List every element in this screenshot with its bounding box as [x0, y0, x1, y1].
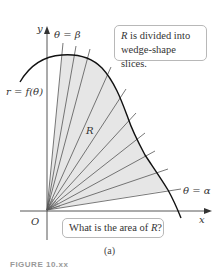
- theta-beta-label: θ = β: [54, 29, 81, 40]
- theta-alpha-label: θ = α: [183, 185, 211, 196]
- callout-top-line1: is divided into: [127, 30, 190, 41]
- x-axis-label: x: [199, 214, 205, 225]
- callout-top-line2: wedge-shape slices.: [121, 43, 202, 71]
- callout-bottom-suffix: ?: [157, 222, 162, 233]
- y-axis-arrow-icon: [44, 26, 50, 34]
- origin-label: O: [31, 216, 39, 227]
- figure-number-cutoff: FIGURE 10.xx: [10, 260, 68, 269]
- callout-area-question: What is the area of R?: [62, 218, 164, 238]
- x-axis-arrow-icon: [204, 208, 212, 214]
- callout-wedge-slices: R is divided into wedge-shape slices.: [114, 25, 207, 61]
- y-axis-label: y: [36, 23, 43, 34]
- callout-bottom-prefix: What is the area of: [69, 222, 151, 233]
- curve-label: r = f(θ): [6, 86, 43, 97]
- region-label: R: [85, 125, 94, 136]
- region-r-fill: [47, 55, 168, 210]
- subfigure-caption: (a): [104, 245, 115, 256]
